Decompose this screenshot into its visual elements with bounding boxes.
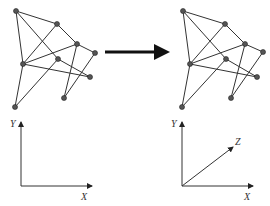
graph-node: [21, 62, 26, 67]
axis-label-z-3d: Z: [235, 136, 241, 147]
diagram-canvas: Y X Y X Z: [0, 0, 270, 206]
graph-edge: [16, 11, 23, 64]
diagram-svg: Y X Y X Z: [0, 0, 270, 206]
graph-node: [14, 9, 19, 14]
graph-edge: [225, 24, 245, 44]
axes-2d: [21, 122, 92, 186]
graph-node: [261, 50, 266, 55]
graph-node: [181, 9, 186, 14]
graph-edge: [183, 11, 190, 64]
graph-node: [62, 96, 67, 101]
graph-node: [93, 51, 98, 56]
axis-label-x-2d: X: [80, 191, 88, 202]
graph-edge: [23, 64, 90, 77]
graph-edge: [231, 44, 245, 98]
graph-edge: [183, 11, 226, 59]
graph-node: [223, 22, 228, 27]
graph-2d: [13, 9, 98, 110]
graph-edge: [16, 11, 58, 59]
arrow-head-icon: [154, 44, 170, 60]
graph-node: [243, 42, 248, 47]
axes-3d: [182, 122, 253, 186]
graph-node: [75, 42, 80, 47]
graph-node: [224, 57, 229, 62]
axis-label-y-3d: Y: [171, 118, 178, 129]
graph-node: [229, 96, 234, 101]
transform-arrow: [105, 44, 170, 60]
graph-node: [13, 105, 18, 110]
graph-3d: [180, 9, 266, 110]
axis-label-y-2d: Y: [10, 118, 17, 129]
graph-node: [88, 75, 93, 80]
graph-edge: [190, 64, 257, 77]
graph-edge: [245, 44, 263, 52]
graph-node: [255, 75, 260, 80]
graph-edge: [77, 44, 95, 53]
graph-edge: [15, 64, 23, 107]
graph-edge: [57, 24, 77, 44]
graph-edge: [182, 64, 190, 107]
graph-node: [180, 105, 185, 110]
graph-node: [56, 57, 61, 62]
graph-edge: [64, 44, 77, 98]
graph-node: [188, 62, 193, 67]
axis-label-x-3d: X: [243, 191, 251, 202]
graph-node: [55, 22, 60, 27]
